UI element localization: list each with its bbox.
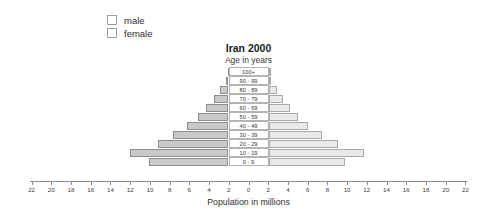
x-axis-tick (51, 181, 52, 185)
x-axis-tick (387, 181, 388, 185)
x-axis-tick (110, 181, 111, 185)
x-axis-tick-label: 12 (359, 186, 375, 193)
x-axis-tick-label: 16 (83, 186, 99, 193)
x-axis-tick-label: 4 (201, 186, 217, 193)
age-group-label: 0 - 9 (229, 157, 269, 166)
x-axis-tick-label: 2 (221, 186, 237, 193)
x-axis-title: Population in millions (0, 197, 497, 207)
x-axis-tick-label: 20 (438, 186, 454, 193)
bar-female (269, 140, 338, 148)
legend-label-female: female (124, 28, 153, 39)
x-axis-tick (229, 181, 230, 185)
chart-subtitle: Age in years (0, 55, 497, 65)
legend-label-male: male (124, 15, 145, 26)
x-axis-tick-label: 2 (260, 186, 276, 193)
age-group-label: 50 - 59 (229, 112, 269, 121)
pyramid-row: 10 - 19 (0, 148, 497, 157)
legend-swatch-male (107, 15, 117, 25)
bar-male (187, 122, 228, 130)
x-axis-tick-label: 12 (122, 186, 138, 193)
chart-legend: male female (107, 14, 227, 40)
age-group-label: 40 - 49 (229, 121, 269, 130)
legend-swatch-female (107, 28, 117, 38)
pyramid-row: 80 - 89 (0, 85, 497, 94)
x-axis-tick-label: 14 (379, 186, 395, 193)
x-axis-tick (327, 181, 328, 185)
x-axis-tick (91, 181, 92, 185)
chart-title: Iran 2000 (0, 42, 497, 54)
x-axis-tick (308, 181, 309, 185)
x-axis: 2220181614121086420246810121416182022 (0, 181, 497, 197)
x-axis-tick-label: 18 (63, 186, 79, 193)
bar-female (269, 95, 284, 103)
age-group-label: 20 - 29 (229, 139, 269, 148)
bar-female (269, 77, 272, 85)
x-axis-tick-label: 22 (24, 186, 40, 193)
bar-female (269, 149, 365, 157)
x-axis-tick (32, 181, 33, 185)
bar-male (149, 158, 229, 166)
x-axis-tick-label: 8 (319, 186, 335, 193)
x-axis-tick (150, 181, 151, 185)
x-axis-tick-label: 18 (418, 186, 434, 193)
x-axis-tick-label: 14 (102, 186, 118, 193)
x-axis-tick (249, 181, 250, 185)
bar-male (206, 104, 229, 112)
pyramid-row: 50 - 59 (0, 112, 497, 121)
bar-female (269, 68, 271, 76)
legend-item-female: female (107, 27, 227, 39)
x-axis-tick (209, 181, 210, 185)
age-group-label: 80 - 89 (229, 85, 269, 94)
pyramid-row: 0 - 9 (0, 157, 497, 166)
age-group-label: 100+ (229, 67, 269, 76)
bar-male (214, 95, 229, 103)
x-axis-tick-label: 0 (241, 186, 257, 193)
x-axis-tick-label: 16 (398, 186, 414, 193)
x-axis-tick (71, 181, 72, 185)
x-axis-tick (446, 181, 447, 185)
bar-female (269, 158, 346, 166)
plot-area: 100+90 - 9980 - 8970 - 7960 - 6950 - 594… (0, 67, 497, 175)
x-axis-tick-label: 10 (339, 186, 355, 193)
x-axis-tick (288, 181, 289, 185)
bar-male (220, 86, 229, 94)
x-axis-tick (406, 181, 407, 185)
population-pyramid-chart: male female Iran 2000 Age in years 100+9… (0, 0, 497, 215)
x-axis-tick-label: 6 (181, 186, 197, 193)
x-axis-tick-label: 22 (457, 186, 473, 193)
x-axis-tick (465, 181, 466, 185)
age-group-label: 90 - 99 (229, 76, 269, 85)
x-axis-tick-label: 6 (300, 186, 316, 193)
bar-female (269, 122, 308, 130)
age-group-label: 60 - 69 (229, 103, 269, 112)
age-group-label: 70 - 79 (229, 94, 269, 103)
legend-item-male: male (107, 14, 227, 26)
bar-female (269, 131, 322, 139)
pyramid-row: 100+ (0, 67, 497, 76)
x-axis-tick-label: 10 (142, 186, 158, 193)
x-axis-tick (189, 181, 190, 185)
bar-female (269, 113, 299, 121)
x-axis-tick (426, 181, 427, 185)
x-axis-tick-label: 8 (162, 186, 178, 193)
pyramid-row: 70 - 79 (0, 94, 497, 103)
age-group-label: 10 - 19 (229, 148, 269, 157)
x-axis-tick (347, 181, 348, 185)
bar-female (269, 104, 291, 112)
pyramid-row: 90 - 99 (0, 76, 497, 85)
x-axis-tick (130, 181, 131, 185)
pyramid-row: 30 - 39 (0, 130, 497, 139)
bar-female (269, 86, 278, 94)
bar-male (198, 113, 229, 121)
x-axis-tick-label: 20 (43, 186, 59, 193)
x-axis-tick (268, 181, 269, 185)
pyramid-row: 60 - 69 (0, 103, 497, 112)
bar-male (130, 149, 229, 157)
x-axis-tick-label: 4 (280, 186, 296, 193)
bar-male (173, 131, 228, 139)
bar-male (158, 140, 229, 148)
age-group-label: 30 - 39 (229, 130, 269, 139)
pyramid-row: 40 - 49 (0, 121, 497, 130)
x-axis-tick (170, 181, 171, 185)
pyramid-row: 20 - 29 (0, 139, 497, 148)
